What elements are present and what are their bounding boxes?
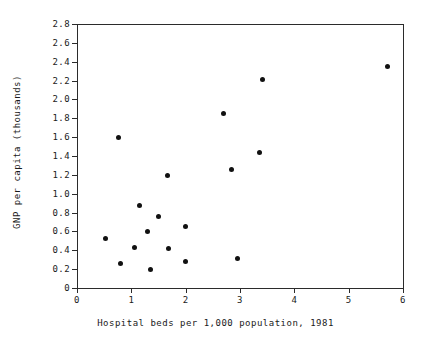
data-point: [385, 64, 390, 69]
scatter-chart-figure: 00.20.40.60.81.01.21.41.61.82.02.22.42.6…: [0, 0, 431, 351]
y-axis-tick-label: 2.8: [53, 19, 70, 29]
plot-frame-right: [403, 24, 404, 289]
data-point: [145, 229, 150, 234]
data-point: [183, 224, 188, 229]
plot-frame-top: [77, 24, 404, 25]
y-axis-tick-labels: 00.20.40.60.81.01.21.41.61.82.02.22.42.6…: [33, 24, 70, 288]
x-axis-tick-label: 4: [291, 295, 297, 305]
data-point: [103, 236, 108, 241]
data-point: [132, 245, 137, 250]
data-point: [116, 135, 121, 140]
data-point: [229, 167, 234, 172]
y-axis-tick-label: 1.4: [53, 151, 70, 161]
data-point: [221, 111, 226, 116]
data-point: [137, 203, 142, 208]
x-axis-tick: [77, 288, 78, 293]
y-axis-tick-label: 0.4: [53, 245, 70, 255]
x-axis-tick-label: 5: [346, 295, 352, 305]
data-point: [148, 267, 153, 272]
data-point: [118, 261, 123, 266]
y-axis-tick: [72, 250, 77, 251]
data-point: [235, 256, 240, 261]
y-axis-tick: [72, 231, 77, 232]
y-axis-tick-label: 2.2: [53, 76, 70, 86]
y-axis-line: [77, 24, 78, 288]
data-point: [183, 259, 188, 264]
y-axis-title: GNP per capita (thousands): [12, 72, 22, 232]
x-axis-tick-label: 6: [400, 295, 406, 305]
x-axis-title: Hospital beds per 1,000 population, 1981: [0, 318, 431, 328]
plot-area: [77, 24, 403, 288]
y-axis-tick-label: 2.6: [53, 38, 70, 48]
y-axis-tick-label: 0.6: [53, 226, 70, 236]
data-point: [166, 246, 171, 251]
y-axis-tick: [72, 99, 77, 100]
y-axis-tick: [72, 81, 77, 82]
x-axis-tick-label: 1: [128, 295, 134, 305]
y-axis-tick-label: 0: [64, 283, 70, 293]
x-axis-tick: [240, 288, 241, 293]
y-axis-tick: [72, 175, 77, 176]
y-axis-tick-label: 2.0: [53, 94, 70, 104]
data-point: [260, 77, 265, 82]
y-axis-tick-label: 1.0: [53, 189, 70, 199]
x-axis-tick: [403, 288, 404, 293]
y-axis-tick-label: 1.8: [53, 113, 70, 123]
x-axis-tick-label: 0: [74, 295, 80, 305]
y-axis-tick: [72, 118, 77, 119]
y-axis-tick: [72, 156, 77, 157]
y-axis-tick: [72, 137, 77, 138]
y-axis-tick-label: 0.8: [53, 208, 70, 218]
x-axis-tick: [186, 288, 187, 293]
y-axis-tick-label: 2.4: [53, 57, 70, 67]
y-axis-tick: [72, 62, 77, 63]
x-axis-tick-label: 3: [237, 295, 243, 305]
data-point: [156, 214, 161, 219]
data-point: [257, 150, 262, 155]
data-point: [165, 173, 170, 178]
x-axis-tick: [294, 288, 295, 293]
x-axis-tick-label: 2: [183, 295, 189, 305]
y-axis-tick-label: 1.6: [53, 132, 70, 142]
x-axis-tick: [349, 288, 350, 293]
y-axis-tick: [72, 269, 77, 270]
y-axis-tick: [72, 24, 77, 25]
x-axis-tick-labels: 0123456: [77, 295, 404, 309]
y-axis-tick: [72, 213, 77, 214]
y-axis-tick: [72, 43, 77, 44]
x-axis-tick: [131, 288, 132, 293]
y-axis-tick: [72, 194, 77, 195]
y-axis-tick-label: 1.2: [53, 170, 70, 180]
y-axis-tick-label: 0.2: [53, 264, 70, 274]
